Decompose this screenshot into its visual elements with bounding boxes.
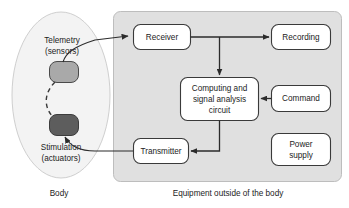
sensor-implant-label-line1: Telemetry	[44, 36, 80, 45]
node-receiver-label: Receiver	[146, 33, 179, 42]
node-power-supply-label-line2: supply	[289, 151, 314, 160]
node-computing-label-line3: circuit	[209, 106, 231, 115]
actuator-implant-label-line2: (actuators)	[41, 154, 80, 163]
diagram-svg: Telemetry (sensors) Stimulation (actuato…	[0, 0, 349, 208]
node-recording-label: Recording	[282, 33, 320, 42]
node-power-supply[interactable]	[272, 134, 331, 166]
sensor-implant[interactable]	[50, 62, 79, 83]
node-transmitter-label: Transmitter	[140, 147, 181, 156]
diagram-canvas: Telemetry (sensors) Stimulation (actuato…	[0, 0, 349, 208]
node-command-label: Command	[282, 94, 320, 103]
equipment-region-caption: Equipment outside of the body	[173, 189, 285, 198]
body-region-caption: Body	[50, 189, 70, 198]
node-power-supply-label-line1: Power	[289, 140, 312, 149]
node-computing-label-line2: signal analysis	[193, 95, 246, 104]
node-computing-label-line1: Computing and	[192, 84, 248, 93]
actuator-implant[interactable]	[50, 115, 79, 136]
